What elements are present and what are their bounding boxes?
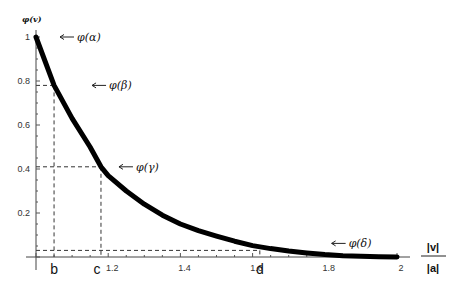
x-tick-label: 2 [398,263,403,273]
y-tick-label: 1 [25,32,30,42]
marker-d: d [256,261,264,277]
annotation-label: φ(γ) [136,161,159,174]
y-tick-label: 0.2 [17,208,30,218]
y-tick-label: 0.6 [17,120,30,130]
marker-c: c [93,261,100,277]
annotation-label: φ(δ) [349,237,372,250]
marker-b: b [50,261,58,277]
annotation-label: φ(α) [77,31,101,44]
x-axis-label-numerator: |v| [427,241,439,253]
y-tick-label: 0.4 [17,164,30,174]
x-axis-label-denominator: |a| [427,262,439,274]
chart: 1.21.41.61.820.20.40.60.81φ(v)|v||a|bcdφ… [0,0,452,286]
annotation-label: φ(β) [109,79,132,92]
x-tick-label: 1.4 [178,263,191,273]
y-axis-label: φ(v) [22,14,42,24]
labels: 1.21.41.61.820.20.40.60.81φ(v)|v||a|bcdφ… [17,14,446,277]
x-tick-label: 1.2 [106,263,119,273]
phi-curve [36,37,397,257]
y-tick-label: 0.8 [17,76,30,86]
x-tick-label: 1.8 [323,263,336,273]
